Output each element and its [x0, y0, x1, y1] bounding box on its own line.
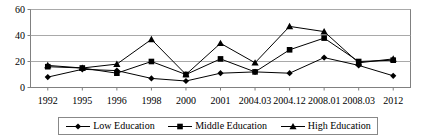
y-axis-tick-label: 20 — [0, 57, 25, 67]
legend-label: Middle Education — [195, 121, 267, 131]
data-point-diamond-marker — [75, 123, 81, 129]
data-point-square-marker — [149, 59, 155, 65]
y-axis-tick-label: 40 — [0, 31, 25, 41]
data-point-square-marker — [287, 47, 293, 53]
legend-item-low-education[interactable]: Low Education — [65, 121, 154, 132]
x-axis-tick-label: 2012 — [371, 96, 415, 106]
legend-label: Low Education — [93, 121, 154, 131]
legend-triangle-icon — [280, 121, 306, 132]
legend-label: High Education — [308, 121, 371, 131]
chart-legend: Low EducationMiddle EducationHigh Educat… — [58, 117, 378, 135]
data-point-square-marker — [114, 70, 120, 76]
data-point-square-marker — [321, 35, 327, 41]
legend-diamond-icon — [65, 121, 91, 132]
legend-item-middle-education[interactable]: Middle Education — [167, 121, 267, 132]
data-point-square-marker — [177, 123, 183, 129]
y-axis-tick-label: 60 — [0, 5, 25, 15]
line-chart: 0204060 1992199519961998200020012004.032… — [0, 0, 421, 140]
data-point-square-marker — [218, 56, 224, 62]
legend-item-high-education[interactable]: High Education — [280, 121, 371, 132]
y-axis-tick-label: 0 — [0, 83, 25, 93]
data-point-square-marker — [252, 69, 258, 75]
legend-square-icon — [167, 121, 193, 132]
